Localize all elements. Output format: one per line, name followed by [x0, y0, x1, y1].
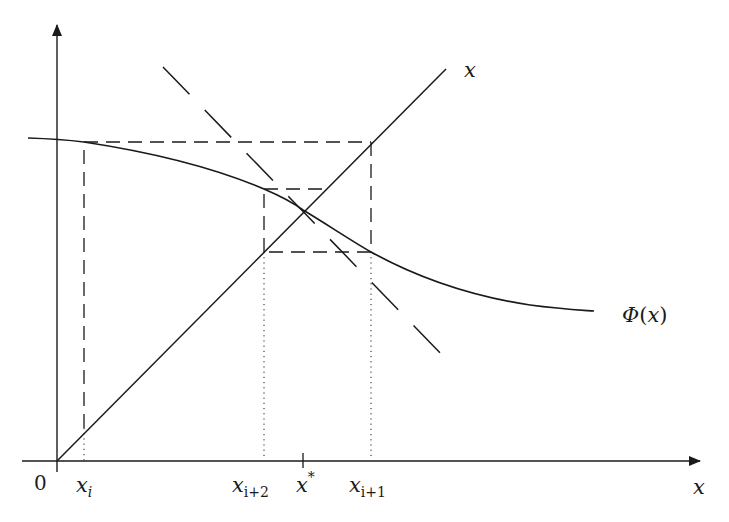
tick-label-x-i-plus-1: xi+1: [349, 473, 386, 500]
labels: x Φ(x) 0 x xi xi+2 x* xi+1: [34, 58, 705, 500]
tick-label-x-i: xi: [76, 473, 92, 500]
tick-label-x-i-plus-2: xi+2: [232, 473, 269, 500]
fixed-point-iteration-diagram: x Φ(x) 0 x xi xi+2 x* xi+1: [0, 0, 729, 522]
identity-line: [57, 69, 446, 461]
phi-label: Φ(x): [622, 303, 667, 327]
phi-curve: [28, 138, 594, 311]
cobweb-path: [84, 142, 371, 428]
axes: [22, 25, 700, 472]
dotted-projections: [84, 252, 371, 460]
identity-line-label: x: [464, 58, 476, 82]
origin-label: 0: [34, 471, 47, 495]
x-axis-label: x: [693, 475, 705, 499]
tick-label-x-star: x*: [296, 469, 315, 497]
